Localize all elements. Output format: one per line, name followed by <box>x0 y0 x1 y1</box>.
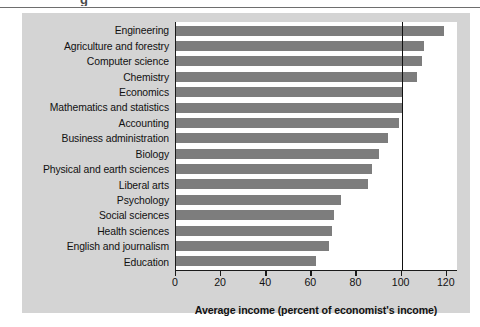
category-label: Computer science <box>30 56 173 67</box>
x-axis-tick-label: 120 <box>437 276 455 288</box>
bar-row <box>176 148 457 159</box>
bar-row <box>176 240 457 251</box>
bar <box>176 103 402 113</box>
bar-row <box>176 179 457 190</box>
bar <box>176 41 424 51</box>
category-label: Engineering <box>30 25 173 36</box>
category-label: Biology <box>30 149 173 160</box>
bar <box>176 210 334 220</box>
x-axis: 020406080100120 <box>175 271 457 293</box>
bar <box>176 164 372 174</box>
category-label: Economics <box>30 87 173 98</box>
bar <box>176 87 402 97</box>
bar <box>176 241 329 251</box>
category-axis-labels: EngineeringAgriculture and forestryCompu… <box>30 22 173 271</box>
category-label: Health sciences <box>30 226 173 237</box>
plot-area <box>175 22 457 271</box>
bar <box>176 256 316 266</box>
bar-row <box>176 71 457 82</box>
page-rule <box>0 7 480 8</box>
bar-row <box>176 194 457 205</box>
category-label: Psychology <box>30 195 173 206</box>
x-axis-tick-label: 40 <box>259 276 271 288</box>
bar <box>176 149 379 159</box>
bar-row <box>176 56 457 67</box>
category-label: Chemistry <box>30 72 173 83</box>
category-label: Accounting <box>30 118 173 129</box>
figure-panel: EngineeringAgriculture and forestryCompu… <box>22 13 470 313</box>
bar-row <box>176 117 457 128</box>
bar-row <box>176 87 457 98</box>
bar <box>176 56 422 66</box>
caption-fragment-text: g <box>80 0 94 6</box>
x-axis-tick-label: 80 <box>350 276 362 288</box>
reference-line-100 <box>402 22 404 270</box>
bar <box>176 118 399 128</box>
bar-series <box>176 22 457 270</box>
bar <box>176 133 388 143</box>
x-axis-tick-label: 0 <box>172 276 178 288</box>
category-label: Physical and earth sciences <box>30 164 173 175</box>
bar-row <box>176 41 457 52</box>
category-label: Liberal arts <box>30 180 173 191</box>
category-label: Business administration <box>30 133 173 144</box>
x-axis-tick-label: 100 <box>392 276 410 288</box>
x-axis-tick-label: 60 <box>304 276 316 288</box>
bar-row <box>176 164 457 175</box>
bar <box>176 72 417 82</box>
bar-row <box>176 210 457 221</box>
bar <box>176 26 444 36</box>
bar-row <box>176 225 457 236</box>
bar <box>176 226 332 236</box>
category-label: Social sciences <box>30 210 173 221</box>
x-axis-tick-label: 20 <box>214 276 226 288</box>
category-label: Mathematics and statistics <box>30 102 173 113</box>
bar-row <box>176 25 457 36</box>
x-axis-title: Average income (percent of economist's i… <box>175 304 457 316</box>
bar-row <box>176 133 457 144</box>
category-label: Education <box>30 257 173 268</box>
bar <box>176 195 341 205</box>
bar-row <box>176 256 457 267</box>
category-label: English and journalism <box>30 241 173 252</box>
bar-row <box>176 102 457 113</box>
bar <box>176 179 368 189</box>
category-label: Agriculture and forestry <box>30 41 173 52</box>
